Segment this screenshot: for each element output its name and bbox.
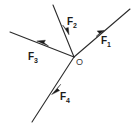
vector-label-f3: F3 [28,52,38,64]
vector-f1 [74,9,130,57]
vector-f4 [32,57,74,122]
vector-label-f2-subscript: 2 [73,22,77,29]
vector-label-f3-subscript: 3 [34,57,38,64]
vector-label-f1: F1 [101,36,111,48]
origin-label: O [76,58,83,67]
vector-label-f4: F4 [60,92,70,104]
vector-f2-line [53,5,74,57]
vector-f4-line [32,57,74,122]
vector-label-f1-subscript: 1 [107,41,111,48]
vector-f3-line [10,32,74,57]
vector-f2 [53,5,74,57]
vector-f1-line [74,9,130,57]
vector-label-f4-subscript: 4 [66,97,70,104]
force-vector-diagram: F1 F2 F3 F4 O [0,0,135,131]
vector-f3 [10,32,74,57]
vector-label-f2: F2 [67,17,77,29]
